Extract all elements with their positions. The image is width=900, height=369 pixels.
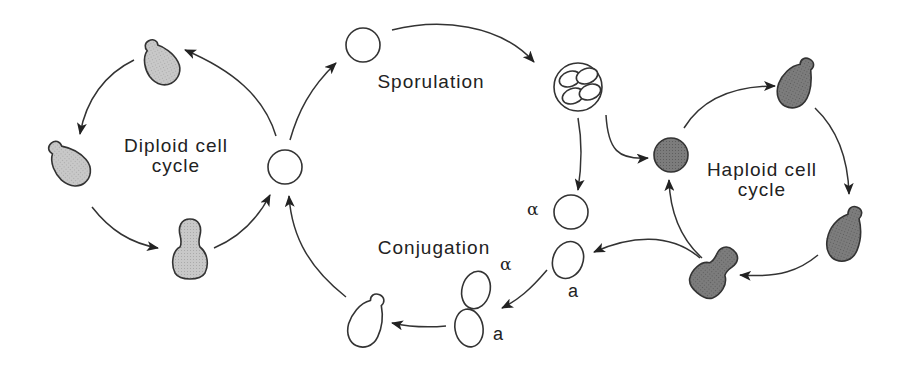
arrow-hub-to-sporulating — [290, 63, 336, 140]
arrow-diploid-left-to-bottom — [92, 207, 158, 248]
a-spore-label: a — [568, 281, 579, 301]
diploid-cycle-label-line1: Diploid cell — [124, 135, 228, 156]
arrow-hub-to-diploid-top — [185, 50, 276, 136]
mating-cell-alpha — [458, 268, 495, 312]
diploid-dividing-cell — [173, 219, 208, 279]
arrow-dividing-to-haploid — [669, 180, 702, 258]
haploid-cycle-label-line2: cycle — [738, 179, 786, 200]
spores: α a — [527, 195, 589, 301]
arrow-ascus-to-alpha-spore — [578, 118, 581, 190]
haploid-cycle-label-line1: Haploid cell — [707, 159, 817, 180]
conjugation-label: Conjugation — [378, 237, 490, 258]
alpha-mating-label: α — [500, 254, 512, 274]
arrow-zygote-to-hub — [289, 196, 346, 297]
haploid-budding-cell-right — [821, 201, 873, 266]
arrow-a-spore-to-mating-pair — [502, 270, 547, 308]
diploid-cycle-label-line2: cycle — [152, 155, 200, 176]
zygote — [341, 288, 394, 352]
a-spore — [547, 237, 589, 283]
ascus-with-four-spores — [554, 63, 603, 111]
arrow-haploid-to-bud-top — [684, 86, 775, 128]
diploid-cell-hub — [268, 150, 302, 184]
conjugation-pathway: α a Conjugation — [289, 196, 547, 352]
sporulating-cell — [346, 28, 380, 62]
diploid-budding-cell-top — [134, 33, 185, 90]
sporulation-label: Sporulation — [377, 71, 484, 92]
arrow-diploid-bottom-to-hub — [214, 195, 270, 248]
a-mating-label: a — [493, 324, 504, 344]
haploid-cell — [654, 138, 688, 172]
alpha-spore — [554, 195, 588, 229]
yeast-life-cycle-diagram: Diploid cell cycle Sporulation α a α — [0, 0, 900, 369]
arrow-bud-top-to-bud-right — [815, 108, 849, 194]
arrow-bud-right-to-dividing — [740, 255, 818, 276]
arrow-ascus-to-haploid-cell — [606, 115, 648, 158]
arrow-haploid-to-a-spore — [594, 239, 700, 258]
haploid-cell-cycle: Haploid cell cycle — [594, 52, 872, 304]
arrow-diploid-top-to-left — [80, 60, 134, 134]
diploid-budding-cell-left — [39, 133, 97, 194]
alpha-spore-label: α — [527, 199, 539, 219]
diploid-cell-cycle: Diploid cell cycle — [39, 33, 276, 279]
arrow-sporulating-to-ascus — [392, 24, 534, 62]
sporulation-pathway: Sporulation — [290, 24, 648, 190]
haploid-budding-cell-top — [771, 52, 824, 114]
arrow-mating-pair-to-zygote — [392, 323, 446, 327]
mating-cell-a — [452, 307, 486, 349]
